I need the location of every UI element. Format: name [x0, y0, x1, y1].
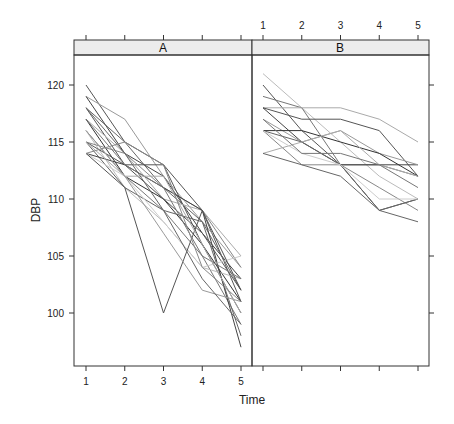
panel-b-lines [263, 74, 418, 222]
x-tick-label: 1 [83, 376, 89, 387]
x-tick-label: 3 [161, 376, 167, 387]
y-tick-label: 115 [48, 137, 64, 148]
x-tick-label: 2 [299, 20, 305, 31]
x-tick-label: 4 [199, 376, 205, 387]
x-tick-label: 3 [338, 20, 344, 31]
strip-label-a: A [159, 41, 167, 55]
y-axis-left-labels: 100105110115120 [47, 80, 64, 319]
lattice-chart: A B 12345 12345 100105110115120 Time DBP [0, 0, 454, 424]
x-axis-top-labels: 12345 [260, 20, 421, 31]
x-tick-label: 5 [415, 20, 421, 31]
panel-b-series-line [263, 108, 418, 165]
panel-a-series-line [86, 142, 241, 336]
panel-a-series-line [86, 131, 241, 325]
x-tick-label: 2 [122, 376, 128, 387]
y-tick-label: 120 [47, 80, 64, 91]
y-axis-title: DBP [29, 198, 43, 223]
x-tick-label: 4 [376, 20, 382, 31]
panel-b-frame [252, 55, 429, 366]
panel-b-series-line [263, 85, 418, 210]
panel-a-lines [86, 85, 241, 347]
panel-a-series-line [86, 142, 241, 313]
x-axis-bottom-labels: 12345 [83, 376, 244, 387]
x-tick-label: 5 [238, 376, 244, 387]
panel-a-series-line [86, 131, 241, 302]
panel-a-series-line [86, 153, 241, 347]
strip-label-b: B [336, 41, 344, 55]
y-tick-label: 110 [48, 194, 64, 205]
x-axis-title: Time [239, 393, 266, 407]
x-tick-label: 1 [260, 20, 266, 31]
y-tick-label: 100 [47, 308, 64, 319]
panel-b-series-line [263, 119, 418, 187]
y-tick-label: 105 [47, 251, 64, 262]
panel-a-series-line [86, 85, 241, 302]
panel-b-series-line [263, 74, 418, 199]
